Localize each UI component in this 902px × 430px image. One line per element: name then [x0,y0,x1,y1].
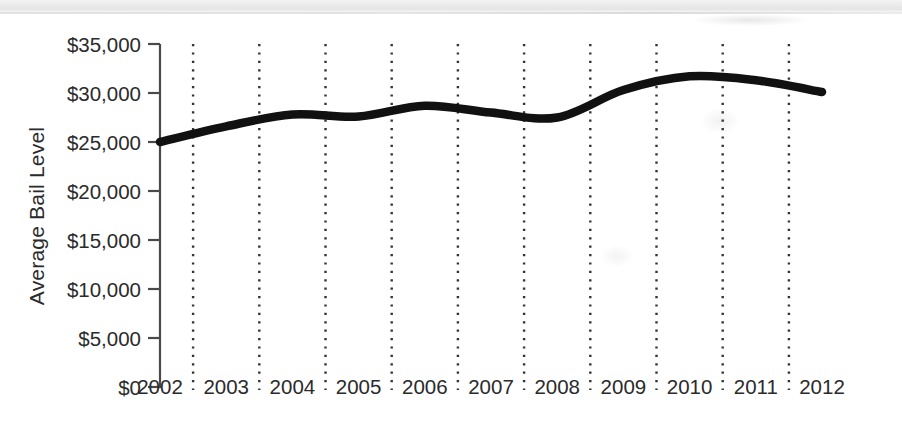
data-line-average-bail-level [160,76,822,142]
y-axis-tick-label: $35,000 [67,33,141,56]
y-axis-tick-label: $5,000 [78,327,141,350]
y-axis: $0$5,000$10,000$15,000$20,000$25,000$30,… [67,33,160,399]
x-axis-tick-label: 2005 [336,375,382,398]
chart-svg: $0$5,000$10,000$15,000$20,000$25,000$30,… [0,0,902,430]
y-axis-tick-label: $25,000 [67,131,141,154]
x-axis-tick-label: 2002 [137,375,183,398]
y-axis-tick-label: $30,000 [67,82,141,105]
y-axis-tick-label: $20,000 [67,180,141,203]
x-axis-tick-label: 2010 [667,375,713,398]
data-series-group [160,76,822,142]
gridline-group [193,44,789,390]
y-axis-tick-label: $10,000 [67,278,141,301]
x-axis-tick-label: 2008 [534,375,580,398]
y-axis-tick-label: $15,000 [67,229,141,252]
chart-page: $0$5,000$10,000$15,000$20,000$25,000$30,… [0,0,902,430]
y-tick-group [148,44,160,387]
y-axis-title: Average Bail Level [25,127,48,305]
line-chart: $0$5,000$10,000$15,000$20,000$25,000$30,… [0,0,902,430]
y-tick-label-group: $0$5,000$10,000$15,000$20,000$25,000$30,… [67,33,141,399]
x-axis-tick-label: 2009 [601,375,647,398]
x-axis-tick-label: 2007 [468,375,514,398]
x-axis-tick-label: 2012 [799,375,845,398]
x-axis-tick-label: 2003 [203,375,249,398]
x-axis-tick-label: 2004 [270,375,316,398]
x-tick-label-group: 2002200320042005200620072008200920102011… [137,375,845,398]
x-axis-tick-label: 2006 [402,375,448,398]
x-axis-tick-label: 2011 [734,375,778,398]
